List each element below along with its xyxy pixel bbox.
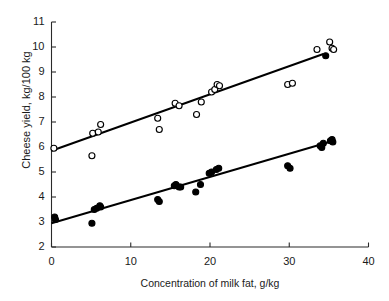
data-point-open [155,115,161,121]
data-point-open [95,129,101,135]
data-point-open [156,127,162,133]
regression-lines [52,54,334,223]
data-point-open [176,103,182,109]
data-point-open [314,47,320,53]
data-point-filled [287,165,293,171]
data-point-filled [52,217,58,223]
chart-figure: Cheese yield, kg/100 kg Concentration of… [0,0,389,301]
data-point-open [194,112,200,118]
data-point-filled [98,204,104,210]
data-point-filled [178,184,184,190]
data-point-filled [323,53,329,59]
data-points [51,39,337,226]
data-point-filled [330,139,336,145]
data-point-open [89,153,95,159]
plot-canvas [0,0,389,301]
data-point-filled [197,182,203,188]
data-point-open [198,99,204,105]
data-point-filled [216,165,222,171]
data-point-open [98,122,104,128]
data-point-filled [193,189,199,195]
data-point-filled [89,220,95,226]
data-point-open [327,39,333,45]
data-point-open [289,80,295,86]
data-point-filled [320,140,326,146]
data-point-open [51,145,57,151]
data-point-filled [156,199,162,205]
data-point-open [217,83,223,89]
data-point-open [331,47,337,53]
